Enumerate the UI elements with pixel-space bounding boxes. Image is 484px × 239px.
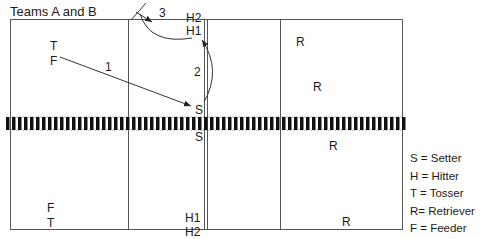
legend: S = Setter H = Hitter T = Tosser R= Retr…: [410, 150, 475, 238]
player-retriever-top-1: R: [296, 36, 305, 48]
arrow-3-label: 3: [159, 7, 166, 19]
legend-retriever: R= Retriever: [410, 203, 475, 221]
player-feeder-bottom: F: [47, 202, 54, 214]
net: [5, 117, 406, 130]
player-retriever-top-2: R: [313, 81, 322, 93]
player-tosser-top: T: [50, 40, 57, 52]
arrow-1: [60, 57, 191, 106]
player-hitter2-top: H2: [186, 12, 201, 24]
arrow-3-curve: [140, 14, 192, 39]
arrow-2-label: 2: [194, 66, 201, 78]
player-feeder-top: F: [50, 55, 57, 67]
attack-mark: [131, 3, 146, 20]
legend-tosser: T = Tosser: [410, 185, 475, 203]
arrow-1-label: 1: [105, 61, 112, 73]
player-hitter2-bottom: H2: [185, 226, 200, 238]
player-retriever-bottom-2: R: [342, 216, 351, 228]
player-hitter1-bottom: H1: [185, 212, 200, 224]
player-retriever-bottom-1: R: [329, 140, 338, 152]
player-setter-bottom: S: [195, 131, 203, 143]
player-setter-top: S: [195, 104, 203, 116]
player-hitter1-top: H1: [186, 25, 201, 37]
player-tosser-bottom: T: [47, 217, 54, 229]
legend-hitter: H = Hitter: [410, 168, 475, 186]
arrow-3-tip: [136, 12, 152, 22]
legend-setter: S = Setter: [410, 150, 475, 168]
legend-feeder: F = Feeder: [410, 220, 475, 238]
